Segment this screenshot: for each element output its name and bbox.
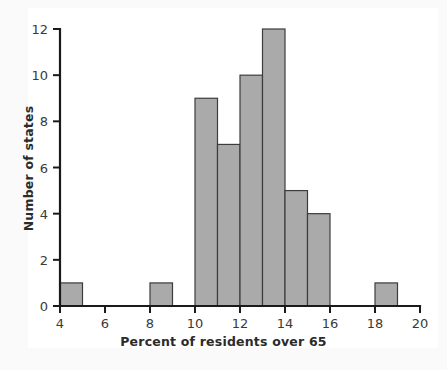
y-tick-label: 8	[40, 114, 48, 129]
y-axis-ticks: 024681012	[31, 22, 60, 314]
histogram-bar	[60, 283, 83, 306]
histogram-bar	[285, 191, 308, 306]
histogram-bar	[375, 283, 398, 306]
y-tick-label: 12	[31, 22, 48, 37]
x-tick-label: 14	[277, 316, 294, 331]
histogram-bar	[195, 98, 218, 306]
histogram-bar	[150, 283, 173, 306]
histogram-bar	[218, 144, 241, 306]
y-axis-title: Number of states	[21, 89, 36, 249]
x-tick-label: 4	[56, 316, 64, 331]
x-tick-label: 12	[232, 316, 249, 331]
y-tick-label: 10	[31, 68, 48, 83]
y-tick-label: 6	[40, 161, 48, 176]
x-tick-label: 6	[101, 316, 109, 331]
y-tick-label: 4	[40, 207, 48, 222]
bars-group	[60, 29, 398, 306]
histogram-figure: 468101214161820 024681012 Percent of res…	[0, 0, 447, 370]
histogram-bar	[263, 29, 286, 306]
x-axis-ticks: 468101214161820	[56, 306, 428, 331]
x-tick-label: 16	[322, 316, 339, 331]
x-tick-label: 18	[367, 316, 384, 331]
y-tick-label: 0	[40, 299, 48, 314]
x-tick-label: 8	[146, 316, 154, 331]
histogram-bar	[308, 214, 331, 306]
x-tick-label: 10	[187, 316, 204, 331]
histogram-chart: 468101214161820 024681012	[0, 0, 447, 370]
x-tick-label: 20	[412, 316, 429, 331]
y-tick-label: 2	[40, 253, 48, 268]
x-axis-title: Percent of residents over 65	[0, 334, 447, 349]
histogram-bar	[240, 75, 263, 306]
